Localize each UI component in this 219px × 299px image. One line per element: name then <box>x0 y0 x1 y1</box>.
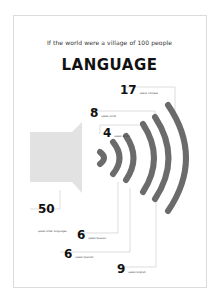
stat-other-languages: 50 speak other languages <box>38 196 67 234</box>
stat-hindi: 8speak Hindi <box>90 100 116 119</box>
stat-value: 17 <box>120 84 137 96</box>
stat-value: 8 <box>90 107 98 119</box>
stat-spanish: 6speak Spanish <box>64 241 93 260</box>
stat-label: speak Hindi <box>101 115 116 119</box>
stat-value: 50 <box>38 203 55 215</box>
stat-value: 9 <box>117 263 125 275</box>
stat-label: speak Arabic <box>114 135 130 139</box>
stat-russian: 6speak Russian <box>77 222 106 241</box>
speaker-graphic <box>0 0 219 299</box>
stat-value: 6 <box>77 229 85 241</box>
stat-label: speak English <box>128 271 145 275</box>
stat-arabic: 4speak Arabic <box>103 120 131 139</box>
stat-value: 4 <box>103 127 111 139</box>
stat-label: speak other languages <box>38 230 67 234</box>
speaker-icon <box>30 122 82 193</box>
stat-chinese: 17speak Chinese <box>120 77 158 96</box>
stat-english: 9speak English <box>117 256 146 275</box>
stat-value: 6 <box>64 248 72 260</box>
stat-label: speak Chinese <box>140 92 158 96</box>
stat-label: speak Spanish <box>75 256 93 260</box>
